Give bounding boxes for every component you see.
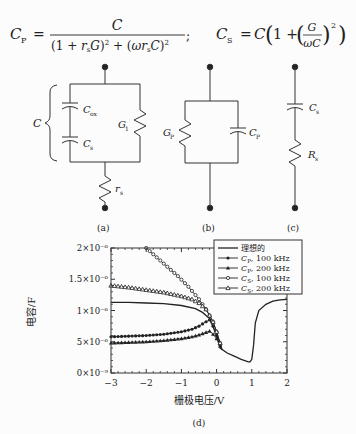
equivalent-circuits: C C ox C s G 1 r s (a) G P C P (b) <box>0 58 356 248</box>
formula-cp: C P = C (1 + rsG)2 + (ωrsC)2 ; <box>10 17 190 54</box>
svg-text:P: P <box>170 133 174 140</box>
x-tick-label: −3 <box>104 378 118 388</box>
svg-text:P: P <box>256 133 260 140</box>
svg-text:ωC: ωC <box>303 37 321 50</box>
caption-b: (b) <box>202 223 215 233</box>
x-axis-label: 栅极电压/V <box>174 394 225 406</box>
series-4 <box>109 283 222 349</box>
y-tick-label: 2×10⁻⁶ <box>77 243 109 253</box>
resistor-gp-icon <box>179 120 191 146</box>
capacitance-formulas: C P = C (1 + rsG)2 + (ωrsC)2 ; C S = C (… <box>0 8 356 58</box>
series-0 <box>111 299 287 362</box>
resistor-rs-icon <box>99 176 111 202</box>
circuit-a <box>45 64 146 211</box>
series-2 <box>109 329 222 350</box>
x-tick-label: −1 <box>175 378 188 388</box>
circuit-b <box>179 64 246 211</box>
x-tick-label: 2 <box>284 378 290 388</box>
svg-text:ox: ox <box>90 110 98 117</box>
svg-text:s: s <box>315 155 318 162</box>
svg-text:s: s <box>316 108 319 115</box>
svg-text:P: P <box>21 36 27 45</box>
caption-a: (a) <box>97 223 109 233</box>
x-tick-label: 0 <box>214 378 220 388</box>
svg-text:理想的: 理想的 <box>241 243 265 253</box>
svg-text:1: 1 <box>125 125 129 132</box>
terminal-bottom <box>102 205 108 211</box>
y-axis-label: 电容/F <box>25 297 37 327</box>
formula-cs: C S = C ( 1 + ( G ωC ) 2 ) <box>216 21 347 50</box>
svg-text:C: C <box>33 117 42 130</box>
svg-text:=: = <box>240 26 252 42</box>
svg-text:=: = <box>33 26 45 42</box>
svg-text:S: S <box>227 36 232 45</box>
y-tick-label: 1×10⁻⁶ <box>77 306 109 316</box>
cv-chart: −3−2−10120×10⁻⁹5×10⁻⁶1×10⁻⁶1.5×10⁻⁶2×10⁻… <box>0 236 356 434</box>
cp-denominator: (1 + rsG)2 + (ωrsC)2 <box>51 39 169 54</box>
svg-text:G: G <box>308 21 317 34</box>
svg-text:1 +: 1 + <box>273 26 298 42</box>
circuit-c <box>287 64 303 211</box>
legend: 理想的CP, 100 kHzCP, 200 kHzCS, 100 kHzCS, … <box>214 240 302 294</box>
x-tick-label: −2 <box>140 378 153 388</box>
svg-text:2: 2 <box>331 21 336 30</box>
y-tick-label: 1.5×10⁻⁶ <box>69 274 109 284</box>
svg-text:C: C <box>112 17 123 33</box>
svg-text:s: s <box>90 144 93 151</box>
resistor-g1-icon <box>134 110 146 136</box>
caption-c: (c) <box>287 223 299 233</box>
brace-icon <box>45 85 57 161</box>
x-tick-label: 1 <box>249 378 255 388</box>
svg-text:): ) <box>338 22 347 47</box>
svg-text:;: ; <box>186 29 190 43</box>
svg-text:): ) <box>322 22 331 47</box>
y-tick-label: 5×10⁻⁶ <box>77 337 109 347</box>
svg-text:s: s <box>120 189 123 196</box>
y-tick-label: 0×10⁻⁹ <box>77 368 109 378</box>
resistor-rs-series-icon <box>289 140 301 166</box>
caption-d: (d) <box>193 418 206 428</box>
